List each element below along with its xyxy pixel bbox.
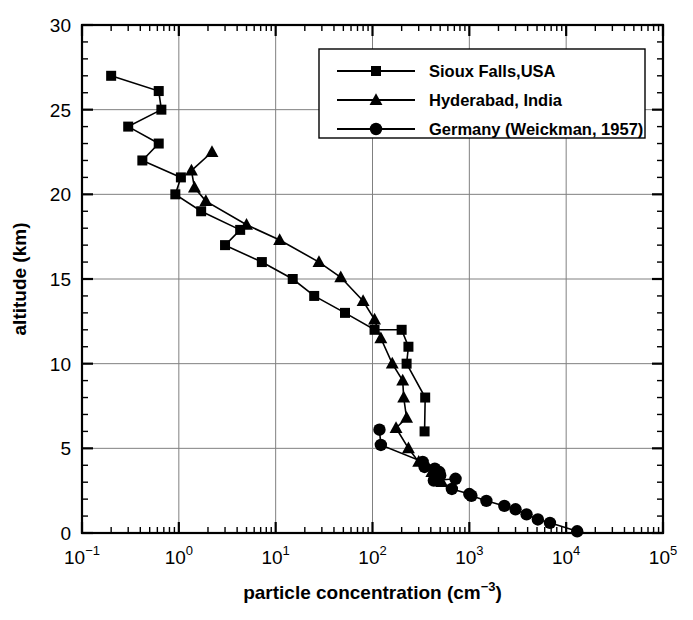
x-axis-title-text: particle concentration (cm−3) — [243, 579, 502, 603]
data-point — [170, 189, 180, 199]
data-point — [532, 513, 544, 525]
data-point — [176, 172, 186, 182]
data-point — [154, 139, 164, 149]
y-axis-title-text: altitude (km) — [9, 223, 30, 336]
particle-concentration-chart: 10−1100101102103104105 051015202530 part… — [0, 0, 693, 620]
legend-label: Sioux Falls,USA — [429, 62, 556, 80]
data-point — [465, 490, 477, 502]
y-tick-label: 0 — [60, 523, 71, 544]
data-point — [544, 517, 556, 529]
data-point — [480, 495, 492, 507]
y-tick-label: 20 — [50, 184, 71, 205]
data-point — [340, 308, 350, 318]
data-point — [428, 474, 440, 486]
y-tick-label: 15 — [50, 269, 71, 290]
data-point — [403, 342, 413, 352]
legend-marker-circle — [370, 123, 382, 135]
legend-label: Hyderabad, India — [429, 91, 563, 109]
data-point — [498, 500, 510, 512]
data-point — [420, 426, 430, 436]
legend-label: Germany (Weickman, 1957) — [429, 120, 643, 138]
x-axis-title: particle concentration (cm−3) — [243, 579, 502, 603]
data-point — [196, 206, 206, 216]
data-point — [373, 424, 385, 436]
data-point — [106, 71, 116, 81]
y-axis-title: altitude (km) — [9, 223, 30, 336]
data-point — [420, 393, 430, 403]
data-point — [137, 155, 147, 165]
data-point — [123, 122, 133, 132]
data-point — [154, 86, 164, 96]
data-point — [402, 359, 412, 369]
data-point — [571, 525, 583, 537]
data-point — [309, 291, 319, 301]
data-point — [288, 274, 298, 284]
data-point — [446, 483, 458, 495]
y-tick-label: 10 — [50, 354, 71, 375]
chart-figure: 10−1100101102103104105 051015202530 part… — [0, 0, 693, 620]
data-point — [509, 503, 521, 515]
data-point — [375, 439, 387, 451]
legend-marker-square — [371, 66, 381, 76]
data-point — [156, 105, 166, 115]
chart-legend: Sioux Falls,USAHyderabad, IndiaGermany (… — [319, 49, 645, 138]
data-point — [520, 508, 532, 520]
data-point — [397, 325, 407, 335]
data-point — [220, 240, 230, 250]
y-tick-label: 5 — [60, 438, 71, 459]
y-tick-label: 30 — [50, 15, 71, 36]
data-point — [257, 257, 267, 267]
y-tick-label: 25 — [50, 100, 71, 121]
